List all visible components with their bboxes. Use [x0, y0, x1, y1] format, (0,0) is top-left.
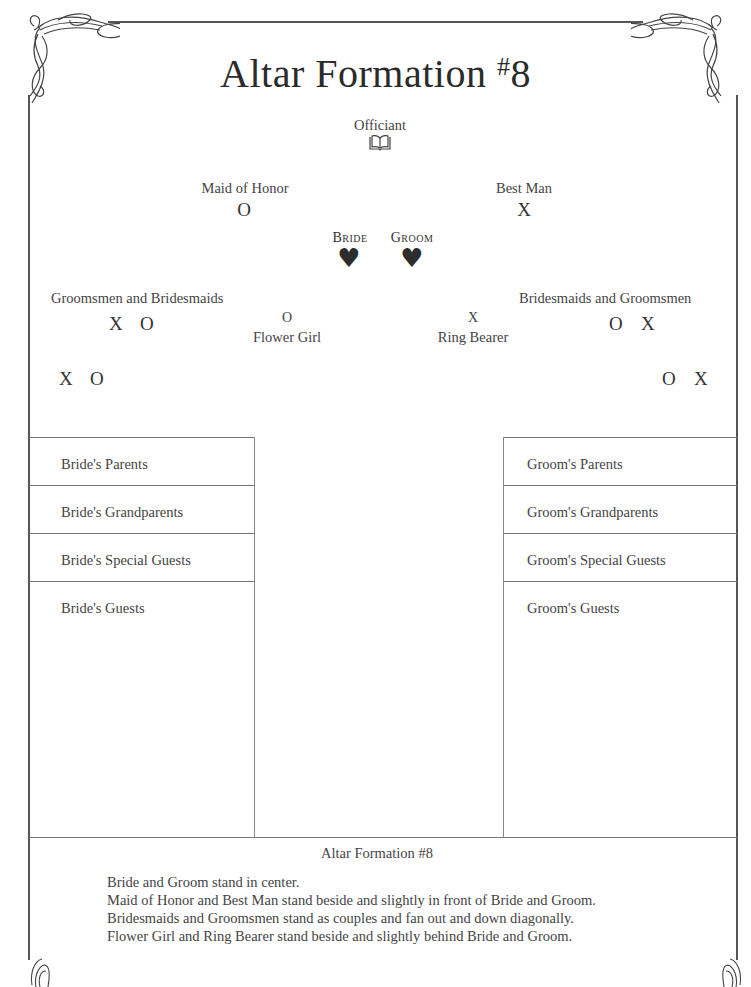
groom-box-divider-1 [503, 485, 737, 486]
open-book-icon [369, 135, 391, 151]
bride-special-guests-row: Bride's Special Guests [61, 552, 191, 569]
left-party-row1-mark-2: O [140, 313, 154, 335]
left-party-row2-mark-2: O [90, 368, 104, 390]
note-line-2: Maid of Honor and Best Man stand beside … [107, 891, 596, 909]
flower-girl-mark: O [282, 310, 292, 326]
flower-girl-label: Flower Girl [253, 329, 321, 346]
page-title-number: 8 [510, 51, 531, 96]
groom-box-divider-3 [503, 581, 737, 582]
groom-special-guests-row: Groom's Special Guests [527, 552, 666, 569]
officiant-label: Officiant [354, 117, 406, 134]
left-party-row1-mark-1: X [109, 313, 123, 335]
bride-grandparents-row: Bride's Grandparents [61, 504, 183, 521]
groom-guests-row: Groom's Guests [527, 600, 619, 617]
best-man-label: Best Man [496, 180, 552, 197]
maid-of-honor-label: Maid of Honor [202, 180, 289, 197]
bride-box-right [254, 437, 255, 837]
note-line-3: Bridesmaids and Groomsmen stand as coupl… [107, 909, 596, 927]
note-line-1: Bride and Groom stand in center. [107, 873, 596, 891]
groom-box-top [503, 437, 737, 438]
page-title-text: Altar Formation [220, 51, 497, 96]
ring-bearer-mark: X [468, 310, 478, 326]
groom-parents-row: Groom's Parents [527, 456, 623, 473]
footer-notes: Bride and Groom stand in center. Maid of… [107, 873, 596, 945]
corner-flourish-bottom-left-icon [20, 955, 60, 987]
frame-right-border [736, 95, 738, 960]
note-line-4: Flower Girl and Ring Bearer stand beside… [107, 927, 596, 945]
bride-box-divider-3 [29, 581, 254, 582]
left-party-row2-mark-1: X [59, 368, 73, 390]
page-title: Altar Formation #8 [0, 50, 751, 97]
bride-box-divider-1 [29, 485, 254, 486]
bride-heart-icon: ♥ [337, 245, 360, 271]
ring-bearer-label: Ring Bearer [438, 329, 508, 346]
footer-caption: Altar Formation #8 [321, 845, 433, 862]
right-party-row2-mark-1: O [662, 368, 676, 390]
bride-box-top [29, 437, 254, 438]
frame-top-border [108, 21, 643, 23]
groom-heart-icon: ♥ [400, 245, 423, 271]
bridesmaids-groomsmen-label: Bridesmaids and Groomsmen [519, 290, 691, 307]
right-party-row2-mark-2: X [694, 368, 708, 390]
groom-grandparents-row: Groom's Grandparents [527, 504, 658, 521]
page-title-hash: # [497, 52, 511, 81]
groom-box-divider-2 [503, 533, 737, 534]
bride-guests-row: Bride's Guests [61, 600, 145, 617]
bride-parents-row: Bride's Parents [61, 456, 148, 473]
bride-box-divider-2 [29, 533, 254, 534]
groomsmen-bridesmaids-label: Groomsmen and Bridesmaids [51, 290, 223, 307]
right-party-row1-mark-2: X [641, 313, 655, 335]
corner-flourish-bottom-right-icon [712, 955, 751, 987]
frame-left-border [28, 95, 30, 960]
best-man-mark: X [517, 199, 531, 221]
footer-divider [29, 837, 737, 838]
groom-box-left [503, 437, 504, 837]
right-party-row1-mark-1: O [609, 313, 623, 335]
maid-of-honor-mark: O [237, 199, 251, 221]
